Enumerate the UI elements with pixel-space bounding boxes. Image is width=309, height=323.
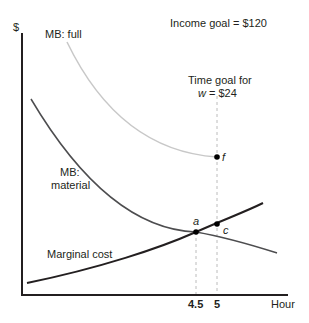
mb-material-label-line2: material [51, 179, 90, 191]
y-axis-label: $ [13, 21, 19, 33]
mb-full-label: MB: full [45, 28, 82, 40]
mb-material-label-line1: MB: [60, 166, 80, 178]
x-tick-4-5: 4.5 [188, 298, 203, 310]
point-a-label: a [193, 215, 199, 227]
time-goal-label-line1: Time goal for [188, 74, 252, 86]
x-axis-label: Hour [271, 298, 295, 310]
income-goal-label: Income goal = $120 [170, 17, 267, 29]
point-c-label: c [223, 224, 229, 236]
marginal-cost-label: Marginal cost [47, 248, 112, 260]
marginal-cost-curve [27, 203, 263, 283]
mb-full-curve [67, 42, 217, 157]
point-a [193, 229, 199, 235]
x-tick-5: 5 [214, 298, 220, 310]
economics-diagram: $ Hour 4.5 5 Income goal = $120 Time goa… [0, 0, 309, 323]
point-c [214, 221, 220, 227]
time-goal-label-line2: w = $24 [198, 87, 237, 99]
point-f [214, 154, 220, 160]
point-f-label: f [222, 151, 226, 163]
